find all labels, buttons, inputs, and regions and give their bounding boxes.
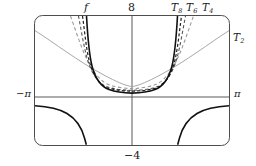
label-curve-f: f	[84, 2, 88, 13]
curve-f-left-branch	[35, 106, 87, 145]
label-taylor-8: T8	[171, 2, 182, 13]
label-taylor-6-base: T	[186, 1, 193, 13]
label-taylor-8-subscript: 8	[178, 7, 182, 15]
label-taylor-8-base: T	[171, 1, 178, 13]
graph-canvas	[0, 0, 256, 166]
label-y-top: 8	[128, 2, 135, 13]
label-taylor-4-base: T	[202, 1, 209, 13]
label-x-max: π	[234, 89, 241, 99]
label-taylor-6-subscript: 6	[193, 7, 197, 15]
label-taylor-2-base: T	[233, 31, 240, 43]
label-taylor-4-subscript: 4	[209, 7, 213, 15]
label-taylor-6: T6	[186, 2, 197, 13]
label-y-bottom: −4	[124, 150, 140, 161]
label-x-min: −π	[16, 89, 31, 99]
curve-f-right-branch	[178, 106, 230, 145]
label-taylor-2: T2	[233, 32, 244, 43]
label-taylor-2-subscript: 2	[240, 37, 244, 45]
label-taylor-4: T4	[202, 2, 213, 13]
